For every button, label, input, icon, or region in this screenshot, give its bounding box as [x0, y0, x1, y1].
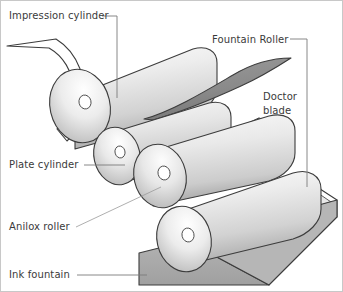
leader-anilox-roller	[76, 187, 161, 227]
diagram-canvas: Impression cylinder Fountain Roller Doct…	[1, 1, 343, 292]
label-anilox-roller: Anilox roller	[9, 221, 71, 232]
flexo-printing-diagram: Impression cylinder Fountain Roller Doct…	[0, 0, 343, 292]
label-fountain-roller: Fountain Roller	[212, 34, 289, 45]
label-plate-cylinder: Plate cylinder	[9, 159, 79, 170]
label-doctor-blade-line1: Doctor	[263, 91, 298, 102]
label-ink-fountain: Ink fountain	[9, 269, 70, 280]
leader-fountain-roller	[290, 39, 307, 187]
label-doctor-blade-line2: blade	[263, 105, 291, 116]
label-impression-cylinder: Impression cylinder	[9, 10, 110, 21]
